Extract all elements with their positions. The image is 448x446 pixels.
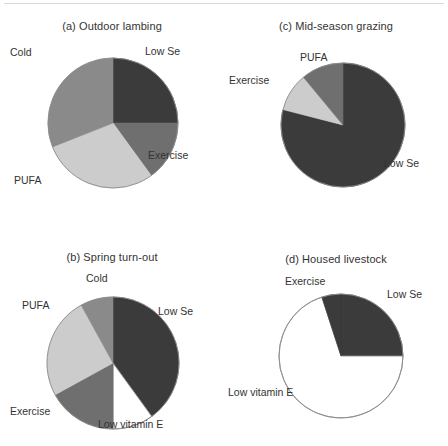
panel-d-title: (d) Housed livestock xyxy=(224,253,448,265)
slice-label-exercise: Exercise xyxy=(10,406,50,417)
pie-chart-c xyxy=(280,62,406,188)
figure-canvas: (a) Outdoor lambing ColdLow SeExercisePU… xyxy=(0,0,448,446)
slice-label-cold: Cold xyxy=(86,273,108,284)
slice-label-low-se: Low Se xyxy=(384,158,419,169)
slice-label-cold: Cold xyxy=(10,47,32,58)
pie-slice-low-se xyxy=(341,294,403,356)
pie-chart-a xyxy=(47,57,179,189)
panel-c-title: (c) Mid-season grazing xyxy=(224,20,448,32)
panel-a-title: (a) Outdoor lambing xyxy=(0,20,224,32)
panel-spring-turn-out: (b) Spring turn-out ColdPUFALow SeExerci… xyxy=(0,223,224,446)
slice-label-low-se: Low Se xyxy=(145,46,180,57)
slice-label-exercise: Exercise xyxy=(285,276,325,287)
panel-outdoor-lambing: (a) Outdoor lambing ColdLow SeExercisePU… xyxy=(0,0,224,223)
slice-label-low-vitamin-e: Low vitamin E xyxy=(228,387,293,398)
panel-b-title: (b) Spring turn-out xyxy=(0,251,224,263)
slice-label-exercise: Exercise xyxy=(229,75,269,86)
slice-label-pufa: PUFA xyxy=(14,175,41,186)
slice-label-low-se: Low Se xyxy=(387,289,422,300)
panel-housed-livestock: (d) Housed livestock ExerciseLow SeLow v… xyxy=(224,223,448,446)
slice-label-pufa: PUFA xyxy=(300,52,327,63)
slice-label-pufa: PUFA xyxy=(22,300,49,311)
slice-label-exercise: Exercise xyxy=(148,150,188,161)
pie-slice-low-se xyxy=(113,58,178,123)
panel-mid-season-grazing: (c) Mid-season grazing PUFAExerciseLow S… xyxy=(224,0,448,223)
slice-label-low-vitamin-e: Low vitamin E xyxy=(98,419,163,430)
pie-chart-d xyxy=(278,293,404,419)
slice-label-low-se: Low Se xyxy=(158,306,193,317)
